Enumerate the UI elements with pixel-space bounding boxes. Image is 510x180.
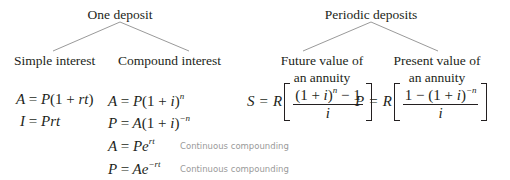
left-bracket bbox=[394, 83, 400, 121]
denominator: i bbox=[439, 105, 443, 121]
formula-continuous-future: A = Pert bbox=[108, 136, 155, 155]
formula-annuity-present-value: P = R 1 − (1 + i)−n i bbox=[355, 82, 487, 121]
left-bracket bbox=[284, 83, 290, 121]
coef-r: R bbox=[383, 93, 392, 110]
formula-compound-future: A = P(1 + i)n bbox=[108, 91, 184, 110]
numerator: (1 + i)n − 1 bbox=[293, 82, 363, 105]
formula-continuous-present: P = Ae−rt bbox=[108, 159, 161, 178]
node-periodic-deposits: Periodic deposits bbox=[320, 6, 422, 23]
node-future-value-annuity: Future value of an annuity bbox=[272, 52, 372, 86]
formula-simple-amount: A = P(1 + rt) bbox=[16, 91, 94, 108]
right-bracket bbox=[481, 83, 487, 121]
connector-one-to-simple bbox=[53, 22, 120, 51]
node-simple-interest: Simple interest bbox=[14, 52, 92, 69]
connector-periodic-to-future bbox=[303, 22, 371, 51]
note-continuous-compounding-1: Continuous compounding bbox=[180, 141, 289, 151]
numerator: 1 − (1 + i)−n bbox=[403, 82, 479, 105]
fraction: 1 − (1 + i)−n i bbox=[403, 82, 479, 121]
fraction: (1 + i)n − 1 i bbox=[293, 82, 363, 121]
lhs-p: P bbox=[355, 93, 364, 110]
formula-simple-interest: I = Prt bbox=[20, 113, 60, 130]
node-compound-interest: Compound interest bbox=[118, 52, 214, 69]
node-future-value-line1: Future value of bbox=[272, 52, 372, 69]
connector-one-to-compound bbox=[120, 22, 189, 51]
node-present-value-annuity: Present value of an annuity bbox=[384, 52, 490, 86]
node-one-deposit: One deposit bbox=[80, 6, 160, 23]
note-continuous-compounding-2: Continuous compounding bbox=[180, 164, 289, 174]
node-present-value-line1: Present value of bbox=[384, 52, 490, 69]
formula-annuity-future-value: S = R (1 + i)n − 1 i bbox=[247, 82, 372, 121]
lhs-s: S bbox=[247, 93, 255, 110]
formula-compound-present: P = A(1 + i)−n bbox=[108, 113, 190, 132]
coef-r: R bbox=[273, 93, 282, 110]
denominator: i bbox=[326, 105, 330, 121]
connector-periodic-to-present bbox=[371, 22, 438, 51]
